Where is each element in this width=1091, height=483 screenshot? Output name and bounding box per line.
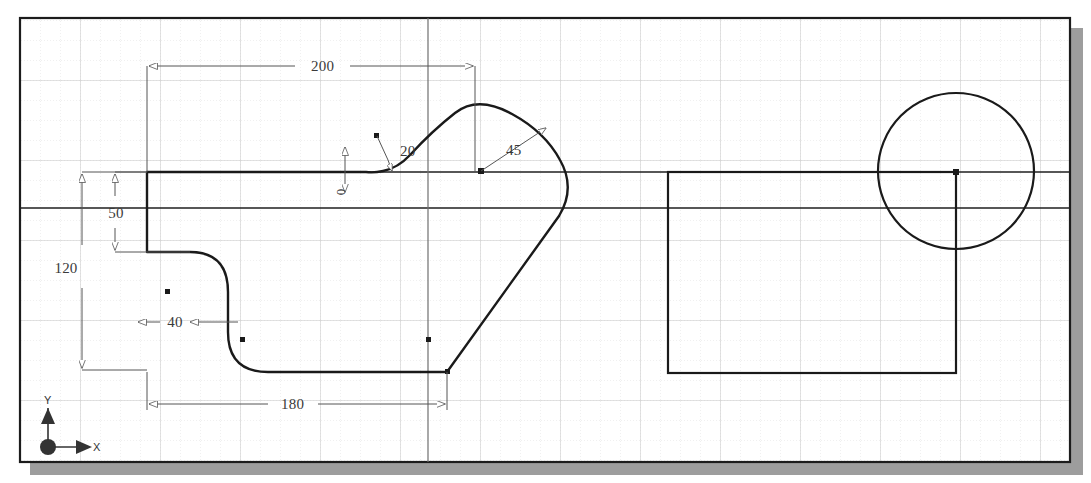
origin-point[interactable] [40,439,56,455]
dimension-120-label: 120 [54,260,77,276]
sketch-plate [20,18,1070,462]
dimension-radius-20-label: 20 [400,143,415,159]
sketch-point[interactable] [165,289,170,294]
cad-canvas[interactable]: 200 180 120 50 [0,0,1091,483]
dimension-200-label: 200 [311,58,334,74]
dimension-radius-45-label: 45 [506,142,521,158]
dimension-40-label: 40 [167,314,182,330]
x-axis-label: X [93,441,101,453]
sketch-point[interactable] [240,337,245,342]
sketch-point[interactable] [374,133,379,138]
rectangle-corner-point[interactable] [953,169,959,175]
dimension-180-label: 180 [281,396,304,412]
sketch-point[interactable] [426,337,431,342]
cad-sketch-window: 200 180 120 50 [0,0,1091,483]
dimension-50-label: 50 [108,205,123,221]
dimension-0-label: 0 [333,189,348,196]
y-axis-label: Y [44,394,52,406]
